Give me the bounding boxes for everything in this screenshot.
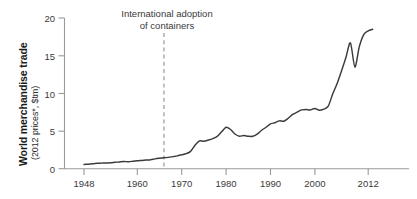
- y-tick-label-20: 20: [34, 13, 55, 24]
- y-tick-label-10: 10: [34, 88, 55, 99]
- x-tick-label-2012: 2012: [358, 178, 379, 189]
- x-tick-label-1990: 1990: [260, 178, 281, 189]
- trade-volume-line: [84, 29, 373, 164]
- annotation-line-2: of containers: [104, 20, 230, 32]
- x-tick-label-2000: 2000: [304, 178, 325, 189]
- x-axis-ticks: [84, 169, 368, 175]
- x-tick-label-1970: 1970: [171, 178, 192, 189]
- annotation-line-1: International adoption: [104, 8, 230, 20]
- y-axis-ticks: [59, 18, 65, 169]
- y-tick-label-15: 15: [34, 50, 55, 61]
- y-axis-title: World merchandise trade: [17, 42, 29, 166]
- x-tick-label-1980: 1980: [216, 178, 237, 189]
- x-tick-label-1948: 1948: [73, 178, 94, 189]
- x-tick-label-1960: 1960: [127, 178, 148, 189]
- y-tick-label-0: 0: [34, 163, 55, 174]
- chart-figure: World merchandise trade (2012 prices*, $…: [0, 0, 417, 199]
- y-tick-label-5: 5: [34, 126, 55, 137]
- container-adoption-annotation: International adoption of containers: [104, 8, 230, 32]
